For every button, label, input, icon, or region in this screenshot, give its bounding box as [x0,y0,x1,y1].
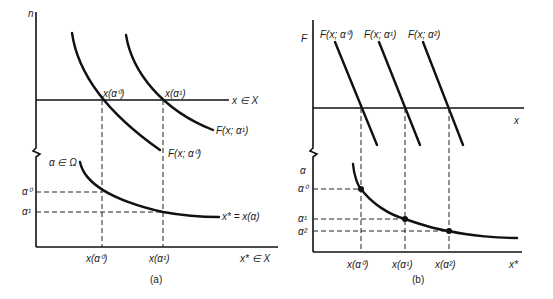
b-alpha-tick-0: α⁰ [298,183,310,194]
panel-a-top-axis-label: n [28,8,34,19]
x-tick-1: x(α¹) [148,253,170,264]
curve-F-alpha1 [126,35,213,130]
line-label-alpha0: F(x; α⁰) [320,29,353,40]
curve-label-x-star: x* = x(α) [221,211,260,222]
intersect-label-1: x(α¹) [164,88,186,99]
line-F-alpha0 [335,42,377,145]
point-alpha2 [446,228,452,234]
x-line-label: x ∈ X [231,95,259,106]
curve-x-star [80,162,219,217]
line-label-alpha1: F(x; α¹) [364,29,396,40]
x-tick-0: x(α⁰) [85,253,107,264]
panel-a-bottom-axis-label: α ∈ Ω [49,157,77,168]
b-alpha-tick-2: α² [298,226,308,237]
panel-b-x-axis-label: x* [508,259,519,270]
line-F-alpha1 [379,42,420,145]
curve-label-alpha1: F(x; α¹) [216,125,248,136]
b-x-tick-1: x(α¹) [391,259,413,270]
panel-b-x-line-label: x [513,115,520,126]
line-F-alpha2 [423,42,463,145]
alpha-tick-1: α¹ [22,206,32,217]
b-x-tick-2: x(α²) [434,259,456,270]
curve-label-alpha0: F(x; α⁰) [168,148,201,159]
intersect-label-0: x(α⁰) [102,88,124,99]
panel-b: F F(x; α⁰) F(x; α¹) F(x; α²) x α α⁰ α¹ α… [298,20,524,285]
line-label-alpha2: F(x; α²) [408,29,440,40]
curve-b-x-star [353,164,517,238]
panel-a-x-axis-label: x* ∈ X [239,253,270,264]
b-x-tick-0: x(α⁰) [346,259,368,270]
point-alpha0 [358,186,364,192]
panel-b-top-axis-label: F [301,33,308,44]
panel-b-bottom-axis-label: α [300,165,306,176]
panel-a: n x(α⁰) x(α¹) x ∈ X F(x; α¹) F(x; α⁰) α … [22,8,278,285]
alpha-tick-0: α⁰ [22,186,34,197]
panel-b-caption: (b) [412,274,424,285]
b-alpha-tick-1: α¹ [298,213,308,224]
diagram-canvas: n x(α⁰) x(α¹) x ∈ X F(x; α¹) F(x; α⁰) α … [0,0,553,299]
point-alpha1 [402,216,408,222]
panel-b-vertical-axis [310,20,317,252]
panel-a-caption: (a) [150,274,162,285]
